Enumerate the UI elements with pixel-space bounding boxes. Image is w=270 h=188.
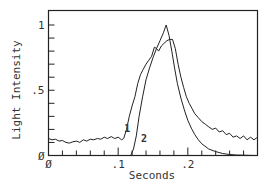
- y-tick-label: Ø: [38, 150, 45, 163]
- y-axis-tick-labels: Ø.51: [31, 19, 45, 163]
- x-axis-label: Seconds: [129, 169, 175, 182]
- series-2-label: 2: [141, 133, 147, 144]
- y-tick-label: 1: [38, 19, 45, 32]
- y-axis-label: Light Intensity: [10, 40, 23, 140]
- x-tick-label: .2: [181, 158, 194, 171]
- plot-frame: [49, 11, 258, 156]
- series-1-line: [49, 39, 258, 143]
- series-layer: [49, 25, 258, 156]
- y-axis-ticks: [49, 25, 55, 156]
- x-tick-label: .1: [112, 158, 125, 171]
- series-1-label: 1: [124, 123, 130, 134]
- series-2-line: [49, 25, 258, 156]
- y-tick-label: .5: [31, 84, 44, 97]
- axes-box: [49, 11, 258, 156]
- line-chart: Ø.51 Ø.1.2 12 Seconds Light Intensity: [0, 0, 270, 188]
- x-tick-label: Ø: [45, 158, 52, 171]
